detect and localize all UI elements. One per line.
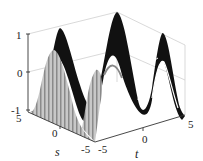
s-tick-0: 0	[52, 127, 58, 139]
plot-canvas: 1 0 -1 5 0 -5 s -5 0 5 t	[0, 0, 203, 161]
z-tick-1: 1	[16, 29, 22, 41]
s-tick-minus5: -5	[81, 143, 91, 155]
t-tick-0: 0	[142, 133, 148, 145]
z-tick-0: 0	[17, 67, 23, 79]
t-axis-label: t	[135, 147, 139, 161]
t-tick-5: 5	[188, 118, 194, 130]
t-tick-minus5: -5	[98, 143, 108, 155]
surface-plot: 1 0 -1 5 0 -5 s -5 0 5 t	[0, 0, 203, 161]
s-axis-label: s	[55, 145, 60, 159]
s-tick-5: 5	[16, 112, 22, 124]
